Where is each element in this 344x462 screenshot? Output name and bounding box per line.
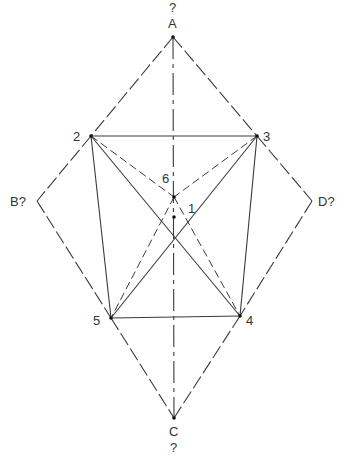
label-point-1: 1	[188, 201, 195, 216]
segment-p2-p4	[91, 136, 240, 316]
vertex-dot-p5	[109, 316, 113, 320]
label-a-question: ?	[169, 0, 176, 15]
vertex-dot-p4	[238, 314, 242, 318]
segment-p5-p4	[111, 316, 240, 318]
vertex-dot-p3	[255, 134, 259, 138]
label-c-question: ?	[170, 440, 177, 455]
vertex-dot-p2	[89, 134, 93, 138]
label-b: B?	[10, 194, 26, 209]
label-a: A	[168, 16, 177, 31]
segment-p2-p6	[91, 136, 174, 197]
segment-d-p4	[240, 201, 312, 316]
segment-a-p2	[91, 37, 173, 136]
label-point-2: 2	[73, 129, 80, 144]
segment-p3-p4	[240, 136, 257, 316]
segment-p2-p5	[91, 136, 111, 318]
vertex-dot-p1	[172, 215, 176, 219]
label-point-3: 3	[263, 129, 270, 144]
segment-p4-c	[174, 316, 240, 418]
segments-layer	[37, 37, 312, 418]
segment-a-c	[173, 37, 174, 418]
segment-p2-b	[37, 136, 91, 201]
vertex-dot-c	[172, 416, 176, 420]
segment-p6-p4	[174, 197, 240, 316]
label-c: C	[169, 424, 178, 439]
label-point-4: 4	[246, 313, 253, 328]
segment-p5-c	[111, 318, 174, 418]
label-d: D?	[318, 194, 335, 209]
label-point-6: 6	[162, 171, 169, 186]
vertex-dot-a	[171, 35, 175, 39]
segment-a-p3	[173, 37, 257, 136]
geometric-diagram: ? A C ? B? D? 2 3 4 5 6 1	[0, 0, 344, 462]
label-point-5: 5	[93, 313, 100, 328]
segment-p3-p5	[111, 136, 257, 318]
segment-p3-d	[257, 136, 312, 201]
vertex-dot-p6	[172, 195, 176, 199]
segment-p6-p5	[111, 197, 174, 318]
